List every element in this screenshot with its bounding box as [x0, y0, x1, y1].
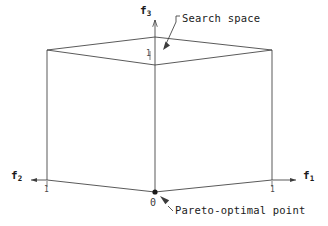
search-space-annotation-label: Search space: [182, 13, 260, 24]
origin-label: 0: [150, 198, 156, 208]
diagram-svg: [0, 0, 328, 226]
pareto-point-leader: [168, 206, 173, 211]
figure-canvas: f3 f1 f2 1 1 1 0 Search space Pareto-opt…: [0, 0, 328, 226]
tick-label-f2: 1: [44, 186, 49, 194]
axis-label-f3: f3: [140, 5, 151, 16]
tick-label-f1: 1: [270, 186, 275, 194]
axis-label-f1-name: f: [303, 169, 310, 182]
pareto-optimal-point-marker: [152, 189, 157, 194]
axis-label-f2: f2: [11, 170, 22, 181]
axis-label-f3-name: f: [140, 4, 147, 17]
cube-wireframe: [47, 37, 272, 192]
axis-label-f2-name: f: [11, 169, 18, 182]
axis-tick-marks: [47, 51, 272, 187]
axis-label-f2-subscript: 2: [18, 174, 23, 183]
cube-top-face: [47, 37, 272, 65]
axis-label-f3-subscript: 3: [147, 9, 152, 18]
axis-label-f1-subscript: 1: [310, 174, 315, 183]
cube-edge-bottom-right: [155, 180, 272, 192]
cube-edge-bottom-left: [47, 180, 155, 192]
axis-label-f1: f1: [303, 170, 314, 181]
tick-label-f3: 1: [146, 50, 151, 58]
search-space-arrowhead: [163, 42, 170, 50]
pareto-point-arrowhead: [160, 196, 169, 204]
pareto-point-annotation-label: Pareto-optimal point: [175, 205, 305, 216]
